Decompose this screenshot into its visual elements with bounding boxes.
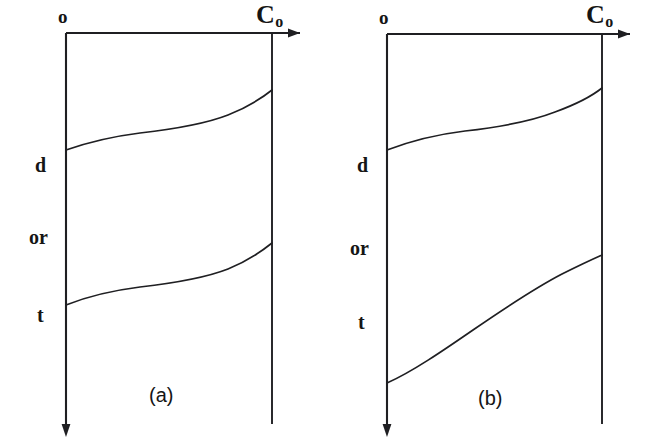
panel-a-concentration-label: Co [256,2,283,30]
panel-b-caption: (b) [478,388,502,408]
diagram-svg [0,0,659,444]
panel-b-lower-curve [387,255,602,383]
panel-a-vertical-axis-arrowhead [62,424,71,437]
panel-b-axis-label-d: d [357,155,368,175]
panel-a-concentration-subscript: o [275,13,283,30]
panel-a-graphics [62,29,300,438]
panel-a-origin-label: o [58,7,68,26]
panel-b-axis-label-or: or [350,238,369,258]
panel-b-horizontal-axis-arrowhead [618,30,630,39]
panel-a-horizontal-axis-arrowhead [288,29,300,38]
panel-b-concentration-symbol: C [586,0,605,29]
panel-b-graphics [383,30,630,438]
figure-canvas: o Co d or t (a) o Co d or t (b) [0,0,659,444]
panel-b-concentration-label: Co [586,2,613,30]
panel-a-upper-curve [66,90,272,150]
panel-a-lower-curve [66,243,272,305]
panel-a-axis-label-or: or [29,227,48,247]
panel-b-vertical-axis-arrowhead [383,424,392,437]
panel-a-concentration-symbol: C [256,0,275,29]
panel-b-axis-label-t: t [358,312,365,332]
panel-a-caption: (a) [149,385,173,405]
panel-b-origin-label: o [379,8,389,27]
panel-b-concentration-subscript: o [605,13,613,30]
panel-a-axis-label-d: d [35,155,46,175]
panel-a-axis-label-t: t [37,305,44,325]
panel-b-upper-curve [387,88,602,150]
